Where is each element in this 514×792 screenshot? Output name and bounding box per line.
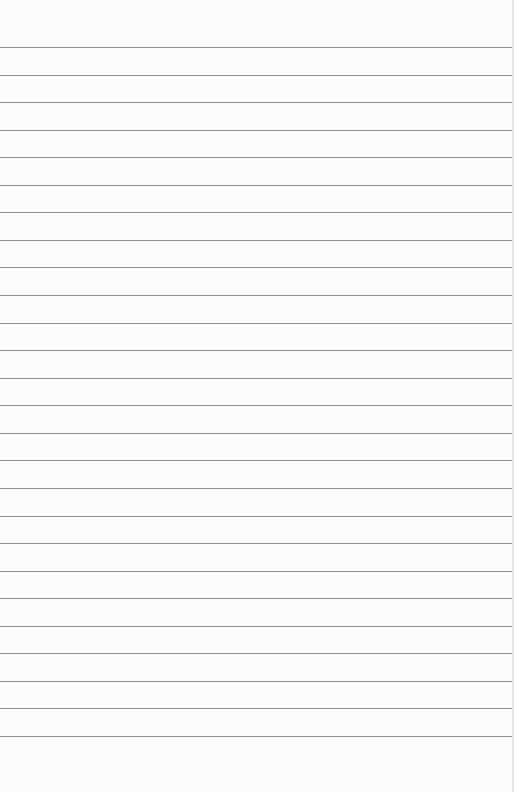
ruled-line [0,47,512,48]
lined-paper-sheet [0,0,514,792]
ruled-line [0,516,512,517]
ruled-line [0,130,512,131]
ruled-line [0,323,512,324]
ruled-line [0,102,512,103]
ruled-line [0,212,512,213]
ruled-line [0,75,512,76]
ruled-line [0,157,512,158]
ruled-line [0,240,512,241]
ruled-line [0,626,512,627]
ruled-line [0,460,512,461]
ruled-line [0,571,512,572]
ruled-line [0,405,512,406]
ruled-line [0,736,512,737]
ruled-line [0,378,512,379]
ruled-line [0,653,512,654]
ruled-line [0,598,512,599]
ruled-line [0,681,512,682]
ruled-line [0,185,512,186]
ruled-line [0,433,512,434]
ruled-line [0,350,512,351]
ruled-line [0,295,512,296]
ruled-line [0,488,512,489]
ruled-line [0,543,512,544]
ruled-line [0,708,512,709]
ruled-line [0,267,512,268]
